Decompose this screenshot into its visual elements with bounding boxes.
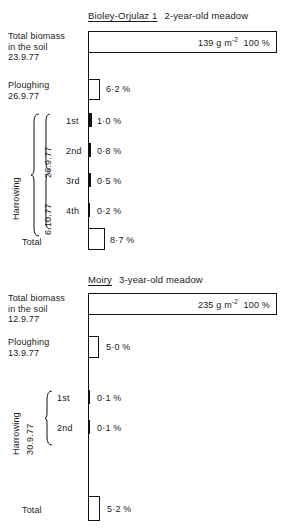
row-label-total-biomass: Total biomass in the soil 12.9.77 (8, 293, 65, 325)
harrowing-date-label: 30.9.77 (25, 424, 35, 455)
harrowing-brace (44, 390, 53, 446)
harrowing-ordinal-label: 1st (57, 393, 70, 403)
biomass-unit-exponent: -2 (232, 36, 238, 43)
biomass-percent-value: 100 % (243, 38, 270, 48)
bar-harrowing-3 (88, 173, 91, 187)
soil-biomass-figure: Bioley-Orjulaz 12-year-old meadow Total … (0, 0, 287, 532)
bar-harrowing-2 (88, 143, 91, 157)
panel-title: Bioley-Orjulaz 12-year-old meadow (88, 10, 248, 21)
bar-harrowing-2-value: 0·8 % (97, 146, 122, 156)
bar-total-value: 8·7 % (110, 235, 135, 245)
row-label-line: in the soil (8, 304, 65, 315)
row-label-total: Total (22, 237, 42, 248)
biomass-percent-value: 100 % (243, 300, 270, 310)
bar-harrowing-3-value: 0·5 % (97, 176, 122, 186)
harrowing-ordinal-label: 1st (66, 116, 79, 126)
bar-harrowing-1-value: 0·1 % (97, 393, 122, 403)
harrowing-ordinal-label: 2nd (66, 146, 82, 156)
meadow-age: 2-year-old meadow (164, 10, 248, 21)
bar-total (88, 496, 100, 521)
row-label-line: Total biomass (8, 293, 65, 304)
bar-harrowing-4-value: 0·2 % (97, 206, 122, 216)
bar-ploughing (88, 79, 100, 100)
site-name: Moiry (88, 274, 112, 285)
row-label-line: in the soil (8, 42, 65, 53)
meadow-age: 3-year-old meadow (119, 274, 203, 285)
bar-harrowing-2 (88, 420, 90, 434)
bar-harrowing-4 (88, 203, 90, 217)
row-label-line: 12.9.77 (8, 314, 65, 325)
bar-total (88, 228, 105, 250)
panel-moiry: Moiry3-year-old meadow Total biomass in … (0, 262, 287, 532)
row-label-line: Ploughing (8, 337, 49, 348)
bar-harrowing-1-value: 1·0 % (97, 116, 122, 126)
row-label-line: 23.9.77 (8, 52, 65, 63)
biomass-unit-exponent: -2 (232, 298, 238, 305)
harrowing-date-label: 6.10.77 (43, 204, 53, 235)
biomass-mass-value: 235 g m (198, 300, 232, 310)
harrowing-ordinal-label: 3rd (66, 176, 80, 186)
site-name: Bioley-Orjulaz 1 (88, 10, 157, 21)
bar-harrowing-1 (88, 390, 90, 404)
row-label-line: 26.9.77 (8, 91, 49, 102)
panel-bioley-orjulaz-1: Bioley-Orjulaz 12-year-old meadow Total … (0, 0, 287, 262)
harrowing-ordinal-label: 2nd (57, 423, 73, 433)
bar-total-biomass-label: 139 g m-2 100 % (198, 36, 276, 48)
bar-ploughing (88, 336, 99, 358)
bar-total-biomass: 139 g m-2 100 % (88, 31, 277, 53)
row-label-line: Total biomass (8, 31, 65, 42)
harrowing-group-label: Harrowing (11, 177, 21, 220)
bar-total-value: 5·2 % (107, 504, 132, 514)
harrowing-outer-brace (30, 113, 40, 237)
harrowing-group-label: Harrowing (11, 412, 21, 455)
bar-total-biomass: 235 g m-2 100 % (88, 293, 277, 315)
panel-title: Moiry3-year-old meadow (88, 274, 203, 285)
bar-total-biomass-label: 235 g m-2 100 % (198, 298, 276, 310)
row-label-total-biomass: Total biomass in the soil 23.9.77 (8, 31, 65, 63)
bar-harrowing-2-value: 0·1 % (97, 423, 122, 433)
bar-ploughing-value: 6·2 % (106, 84, 131, 94)
row-label-line: 13.9.77 (8, 348, 49, 359)
row-label-ploughing: Ploughing 13.9.77 (8, 337, 49, 358)
bar-ploughing-value: 5·0 % (106, 342, 131, 352)
row-label-line: Ploughing (8, 80, 49, 91)
bar-harrowing-1 (88, 113, 92, 127)
row-label-total: Total (22, 505, 42, 516)
harrowing-ordinal-label: 4th (66, 206, 79, 216)
biomass-mass-value: 139 g m (198, 38, 232, 48)
row-label-ploughing: Ploughing 26.9.77 (8, 80, 49, 101)
